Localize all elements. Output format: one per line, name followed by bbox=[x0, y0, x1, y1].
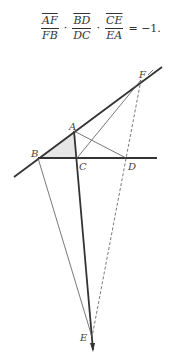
line-ad bbox=[74, 131, 126, 158]
label-c: C bbox=[79, 161, 87, 172]
geometry-figure: F A B C D E bbox=[0, 0, 193, 359]
label-b: B bbox=[30, 148, 38, 159]
label-a: A bbox=[68, 121, 76, 132]
line-bf bbox=[14, 67, 162, 177]
line-cf bbox=[77, 80, 141, 158]
arrow-head-icon bbox=[90, 343, 95, 352]
label-f: F bbox=[138, 69, 147, 80]
dashed-line-fe bbox=[92, 80, 141, 337]
label-d: D bbox=[127, 161, 136, 172]
label-e: E bbox=[79, 332, 88, 343]
